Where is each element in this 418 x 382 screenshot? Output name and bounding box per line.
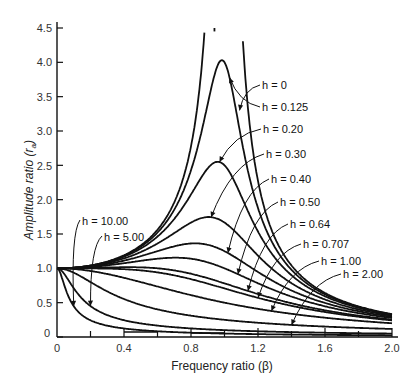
curve-0_125 xyxy=(57,60,392,314)
y-tick-40: 4.0 xyxy=(37,56,52,68)
label-h-040: h = 0.40 xyxy=(271,173,311,185)
x-tick-0: 0 xyxy=(54,342,60,354)
curve-0_64 xyxy=(57,267,392,319)
amplitude-ratio-chart: h = 0 h = 0.125 h = 0.20 h = 0.30 h = 0.… xyxy=(0,0,418,382)
arrow-line xyxy=(228,179,269,253)
label-h-0: h = 0 xyxy=(262,79,287,91)
label-h-0707: h = 0.707 xyxy=(303,238,349,250)
y-tick-45: 4.5 xyxy=(37,22,52,34)
label-h-1000: h = 10.00 xyxy=(82,215,128,227)
label-h-100: h = 1.00 xyxy=(321,255,361,267)
y-tick-15: 1.5 xyxy=(37,228,52,240)
label-h-050: h = 0.50 xyxy=(280,196,320,208)
label-h-500: h = 5.00 xyxy=(104,231,144,243)
label-h-020: h = 0.20 xyxy=(263,123,303,135)
label-h-0125: h = 0.125 xyxy=(262,101,308,113)
y-tick-30: 3.0 xyxy=(37,125,52,137)
arrowhead-icon xyxy=(238,105,243,111)
y-axis-title-main: Amplitude ratio (r xyxy=(22,148,36,241)
x-tick-16: 1.6 xyxy=(317,342,332,354)
arrowhead-icon xyxy=(229,77,234,83)
arrow-line xyxy=(258,244,301,298)
x-tick-20: 2.0 xyxy=(384,342,399,354)
y-axis-title: Amplitude ratio (ra) xyxy=(22,140,38,241)
y-tick-10: 1.0 xyxy=(37,262,52,274)
arrow-line xyxy=(211,154,264,217)
y-tick-0: 0 xyxy=(44,327,50,339)
x-tick-12: 1.2 xyxy=(250,342,265,354)
label-h-200: h = 2.00 xyxy=(343,268,383,280)
x-tick-04: 0.4 xyxy=(116,342,131,354)
label-h-064: h = 0.64 xyxy=(290,218,330,230)
x-axis-title: Frequency ratio (β) xyxy=(171,359,273,373)
label-h-030: h = 0.30 xyxy=(266,148,306,160)
y-tick-25: 2.5 xyxy=(37,160,52,172)
y-tick-35: 3.5 xyxy=(37,91,52,103)
x-tick-08: 0.8 xyxy=(183,342,198,354)
curve-0 xyxy=(57,33,392,315)
y-tick-20: 2.0 xyxy=(37,194,52,206)
response-curves xyxy=(57,28,392,335)
y-tick-05: 0.5 xyxy=(37,297,52,309)
